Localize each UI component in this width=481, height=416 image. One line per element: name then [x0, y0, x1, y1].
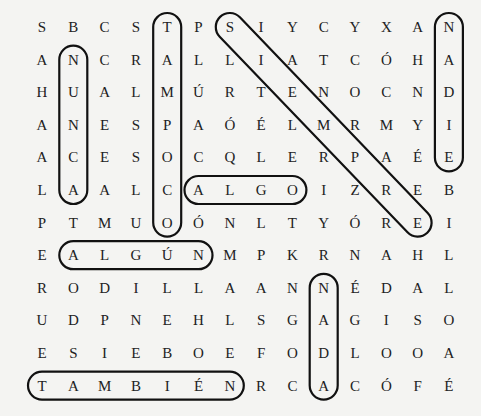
grid-letter: Z: [340, 180, 370, 200]
grid-letter: A: [215, 278, 245, 298]
grid-letter: I: [309, 180, 339, 200]
grid-letter: B: [121, 376, 151, 396]
grid-letter: S: [121, 115, 151, 135]
grid-letter: Y: [340, 17, 370, 37]
grid-letter: A: [403, 278, 433, 298]
grid-letter: E: [27, 343, 57, 363]
grid-letter: U: [27, 310, 57, 330]
grid-letter: L: [27, 180, 57, 200]
grid-letter: É: [434, 376, 464, 396]
grid-letter: Ó: [184, 213, 214, 233]
grid-letter: E: [152, 310, 182, 330]
grid-letter: D: [90, 278, 120, 298]
grid-letter: O: [184, 343, 214, 363]
grid-letter: A: [27, 115, 57, 135]
grid-letter: O: [152, 147, 182, 167]
grid-letter: E: [277, 147, 307, 167]
grid-letter: F: [403, 376, 433, 396]
grid-letter: X: [371, 17, 401, 37]
grid-letter: M: [90, 213, 120, 233]
grid-letter: A: [184, 180, 214, 200]
grid-letter: I: [121, 278, 151, 298]
grid-letter: É: [340, 278, 370, 298]
grid-letter: F: [246, 343, 276, 363]
grid-letter: H: [27, 82, 57, 102]
grid-letter: E: [90, 147, 120, 167]
grid-letter: A: [27, 50, 57, 70]
grid-letter: M: [309, 115, 339, 135]
grid-letter: N: [309, 82, 339, 102]
grid-letter: O: [277, 343, 307, 363]
grid-letter: E: [434, 147, 464, 167]
grid-letter: R: [371, 213, 401, 233]
grid-letter: A: [434, 50, 464, 70]
grid-letter: U: [121, 213, 151, 233]
grid-letter: O: [434, 310, 464, 330]
grid-letter: R: [340, 115, 370, 135]
grid-letter: T: [58, 213, 88, 233]
grid-letter: D: [58, 310, 88, 330]
grid-letter: É: [184, 376, 214, 396]
grid-letter: N: [309, 278, 339, 298]
grid-letter: L: [215, 50, 245, 70]
grid-letter: A: [152, 50, 182, 70]
grid-letter: O: [403, 343, 433, 363]
grid-letter: I: [90, 343, 120, 363]
grid-letter: L: [246, 147, 276, 167]
grid-letter: M: [90, 376, 120, 396]
grid-letter: Ó: [215, 115, 245, 135]
grid-letter: H: [403, 245, 433, 265]
grid-letter: Ú: [152, 245, 182, 265]
grid-letter: Y: [403, 115, 433, 135]
grid-letter: E: [27, 245, 57, 265]
grid-letter: T: [27, 376, 57, 396]
grid-letter: I: [152, 376, 182, 396]
grid-letter: H: [403, 50, 433, 70]
grid-letter: I: [434, 115, 464, 135]
grid-letter: N: [403, 82, 433, 102]
grid-letter: M: [215, 245, 245, 265]
grid-letter: N: [277, 278, 307, 298]
grid-letter: C: [309, 17, 339, 37]
grid-letter: L: [121, 82, 151, 102]
grid-letter: C: [152, 180, 182, 200]
grid-letter: P: [152, 115, 182, 135]
grid-letter: A: [403, 17, 433, 37]
grid-letter: R: [309, 245, 339, 265]
grid-letter: N: [184, 245, 214, 265]
grid-letter: P: [27, 213, 57, 233]
grid-letter: B: [152, 343, 182, 363]
grid-letter: Q: [215, 147, 245, 167]
grid-letter: S: [58, 343, 88, 363]
grid-letter: L: [434, 245, 464, 265]
grid-letter: P: [184, 17, 214, 37]
grid-letter: D: [434, 82, 464, 102]
grid-letter: D: [309, 343, 339, 363]
grid-letter: L: [215, 310, 245, 330]
grid-letter: L: [121, 180, 151, 200]
grid-letter: S: [121, 147, 151, 167]
grid-letter: I: [246, 17, 276, 37]
grid-letter: H: [184, 310, 214, 330]
grid-letter: A: [184, 115, 214, 135]
grid-letter: I: [434, 213, 464, 233]
grid-letter: L: [277, 115, 307, 135]
grid-letter: A: [90, 180, 120, 200]
grid-letter: E: [403, 180, 433, 200]
grid-letter: C: [340, 50, 370, 70]
grid-letter: A: [246, 278, 276, 298]
grid-letter: N: [340, 245, 370, 265]
grid-letter: S: [246, 310, 276, 330]
grid-letter: P: [90, 310, 120, 330]
grid-letter: T: [246, 82, 276, 102]
grid-letter: Ó: [371, 376, 401, 396]
grid-letter: O: [58, 278, 88, 298]
grid-letter: A: [90, 82, 120, 102]
grid-letter: Y: [309, 213, 339, 233]
word-search-grid: SBCSTPSIYCYXANANCRALLIATCÓHAHUALMÚRTENOC…: [0, 0, 481, 416]
grid-letter: G: [121, 245, 151, 265]
grid-letter: Ó: [340, 213, 370, 233]
grid-letter: L: [90, 245, 120, 265]
grid-letter: B: [58, 17, 88, 37]
grid-letter: A: [277, 50, 307, 70]
